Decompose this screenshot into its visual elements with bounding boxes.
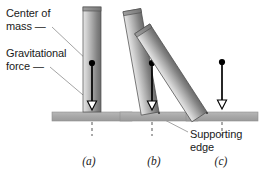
supporting-edge-pivot-c <box>206 112 208 114</box>
center-of-mass-dot-a <box>89 60 95 66</box>
panel-caption-a: (a) <box>74 155 104 167</box>
gravity-arrowhead-c <box>217 100 226 109</box>
label-supporting-edge: Supporting edge <box>190 128 242 153</box>
panel-caption-b: (b) <box>139 155 169 167</box>
label-gravitational-force: Gravitational force — <box>6 47 66 72</box>
center-of-mass-dot-c <box>219 59 225 65</box>
panel-caption-c: (c) <box>206 155 236 167</box>
block-a-top-face <box>83 7 101 11</box>
supporting-edge-pivot-b <box>158 112 160 114</box>
label-center-of-mass: Center of mass — <box>6 7 50 32</box>
physics-figure-center-of-mass: Center of mass — Gravitational force — S… <box>0 0 263 178</box>
